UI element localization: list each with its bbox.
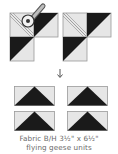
caption-line-2: flying geese units — [0, 144, 118, 153]
flying-geese-unit-3 — [14, 111, 55, 131]
flying-geese-unit-4 — [67, 111, 108, 131]
right-l-unit — [62, 12, 114, 64]
down-arrow-icon — [55, 69, 65, 79]
caption: Fabric B/H 3½" x 6½" flying geese units — [0, 135, 118, 152]
rotary-cutter-icon — [18, 1, 48, 29]
flying-geese-unit-1 — [14, 86, 55, 106]
flying-geese-unit-2 — [67, 86, 108, 106]
